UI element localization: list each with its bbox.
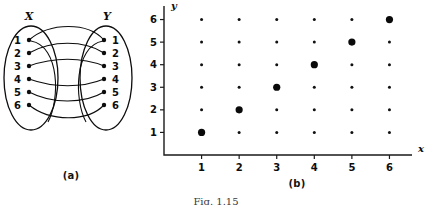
data-point-3-3 xyxy=(273,84,280,91)
data-point-6-4 xyxy=(388,63,391,66)
set-label-y: Y xyxy=(103,10,112,23)
data-point-5-2 xyxy=(350,108,353,111)
y-element-label-2: 2 xyxy=(112,48,119,59)
node-y-6 xyxy=(102,103,106,107)
node-x-3 xyxy=(27,64,31,68)
data-point-2-6 xyxy=(238,18,241,21)
y-axis-ticks: 123456 xyxy=(150,14,164,138)
data-point-3-2 xyxy=(275,108,278,111)
data-point-2-3 xyxy=(238,86,241,89)
node-x-5 xyxy=(27,90,31,94)
y-tick-label-3: 3 xyxy=(150,82,157,93)
node-y-2 xyxy=(102,51,106,55)
data-point-1-1 xyxy=(198,129,205,136)
data-point-3-1 xyxy=(275,131,278,134)
data-point-1-2 xyxy=(200,108,203,111)
scatter-plot-svg: y x 123456 123456 xyxy=(150,0,426,180)
arrow-diagram-svg: X Y 1 2 3 4 5 xyxy=(0,0,150,160)
data-point-3-4 xyxy=(275,63,278,66)
y-tick-label-5: 5 xyxy=(150,37,157,48)
y-element-label-5: 5 xyxy=(112,87,119,98)
set-label-x: X xyxy=(24,10,34,23)
y-axis-title: y xyxy=(170,0,178,11)
y-tick-label-2: 2 xyxy=(150,104,157,115)
x-element-label-3: 3 xyxy=(14,61,21,72)
x-element-label-6: 6 xyxy=(14,100,21,111)
y-tick-label-1: 1 xyxy=(150,127,157,138)
data-point-6-2 xyxy=(388,108,391,111)
data-point-6-6 xyxy=(386,16,393,23)
data-point-2-2 xyxy=(236,106,243,113)
x-tick-label-5: 5 xyxy=(348,162,355,173)
panel-b-caption: (b) xyxy=(275,178,319,189)
data-point-2-1 xyxy=(238,131,241,134)
x-element-label-5: 5 xyxy=(14,87,21,98)
data-point-5-1 xyxy=(350,131,353,134)
data-point-4-2 xyxy=(313,108,316,111)
data-point-6-1 xyxy=(388,131,391,134)
data-point-1-5 xyxy=(200,41,203,44)
node-x-1 xyxy=(27,38,31,42)
node-y-5 xyxy=(102,90,106,94)
data-point-6-3 xyxy=(388,86,391,89)
node-y-4 xyxy=(102,77,106,81)
x-tick-label-4: 4 xyxy=(311,162,318,173)
data-point-5-4 xyxy=(350,63,353,66)
y-element-label-6: 6 xyxy=(112,100,119,111)
data-point-4-4 xyxy=(311,61,318,68)
node-y-1 xyxy=(102,38,106,42)
mapping-curve-6 xyxy=(29,105,104,118)
node-x-4 xyxy=(27,77,31,81)
data-point-2-4 xyxy=(238,63,241,66)
node-y-3 xyxy=(102,64,106,68)
mapping-curve-3 xyxy=(29,59,104,66)
x-axis-ticks: 123456 xyxy=(198,155,393,173)
panel-a-caption: (a) xyxy=(49,170,93,181)
y-element-label-3: 3 xyxy=(112,61,119,72)
node-x-2 xyxy=(27,51,31,55)
data-point-1-3 xyxy=(200,86,203,89)
y-element-label-1: 1 xyxy=(112,35,119,46)
scatter-plot-panel: y x 123456 123456 xyxy=(150,0,426,205)
data-point-5-3 xyxy=(350,86,353,89)
set-y-oval xyxy=(80,26,132,130)
data-point-1-6 xyxy=(200,18,203,21)
data-point-3-5 xyxy=(275,41,278,44)
x-element-label-1: 1 xyxy=(14,35,21,46)
y-element-label-4: 4 xyxy=(112,74,119,85)
x-element-label-4: 4 xyxy=(14,74,21,85)
x-tick-label-3: 3 xyxy=(273,162,280,173)
data-point-5-6 xyxy=(350,18,353,21)
x-element-label-2: 2 xyxy=(14,48,21,59)
mapping-curve-5 xyxy=(29,92,104,101)
data-point-2-5 xyxy=(238,41,241,44)
set-x-oval xyxy=(4,26,58,130)
data-point-6-5 xyxy=(388,41,391,44)
data-point-3-6 xyxy=(275,18,278,21)
data-point-1-4 xyxy=(200,63,203,66)
mapping-curve-4 xyxy=(29,79,104,86)
data-point-4-1 xyxy=(313,131,316,134)
x-axis-title: x xyxy=(417,143,425,154)
x-tick-label-6: 6 xyxy=(386,162,393,173)
y-tick-label-4: 4 xyxy=(150,59,157,70)
identity-relation-points xyxy=(198,16,393,136)
y-tick-label-6: 6 xyxy=(150,14,157,25)
x-tick-label-2: 2 xyxy=(236,162,243,173)
figure-number-label: Fig. 1.15 xyxy=(176,196,256,205)
data-point-5-5 xyxy=(348,39,355,46)
x-tick-label-1: 1 xyxy=(198,162,205,173)
data-point-4-3 xyxy=(313,86,316,89)
node-x-6 xyxy=(27,103,31,107)
data-point-4-6 xyxy=(313,18,316,21)
data-point-4-5 xyxy=(313,41,316,44)
figure-container: X Y 1 2 3 4 5 xyxy=(0,0,426,205)
cartesian-product-points xyxy=(200,18,391,134)
